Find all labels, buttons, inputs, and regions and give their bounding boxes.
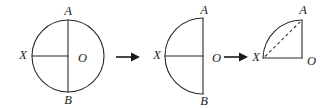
panel-circle: A B X O: [18, 4, 104, 107]
label-A-quarter: A: [298, 3, 307, 17]
quarter-dashed-chord-XA: [265, 22, 300, 57]
label-O-semicircle: O: [212, 51, 221, 65]
label-A-semicircle: A: [199, 3, 208, 17]
figure-canvas: A B X O A B X O: [0, 0, 323, 108]
arrow-2-head: [239, 53, 248, 62]
panel-semicircle: A B X O: [152, 3, 221, 108]
label-O-circle: O: [78, 51, 87, 65]
transform-arrow-1: [116, 53, 140, 62]
geometry-figure: A B X O A B X O: [0, 0, 323, 108]
label-X-semicircle: X: [152, 48, 162, 62]
label-X-quarter: X: [251, 50, 261, 64]
arrow-1-head: [131, 53, 140, 62]
label-A-circle: A: [63, 4, 72, 18]
transform-arrow-2: [224, 53, 248, 62]
label-X-circle: X: [18, 48, 28, 62]
label-B-circle: B: [64, 93, 72, 107]
label-B-semicircle: B: [200, 94, 208, 108]
label-O-quarter: O: [307, 54, 316, 68]
panel-quarter-circle: A X O: [251, 3, 316, 68]
